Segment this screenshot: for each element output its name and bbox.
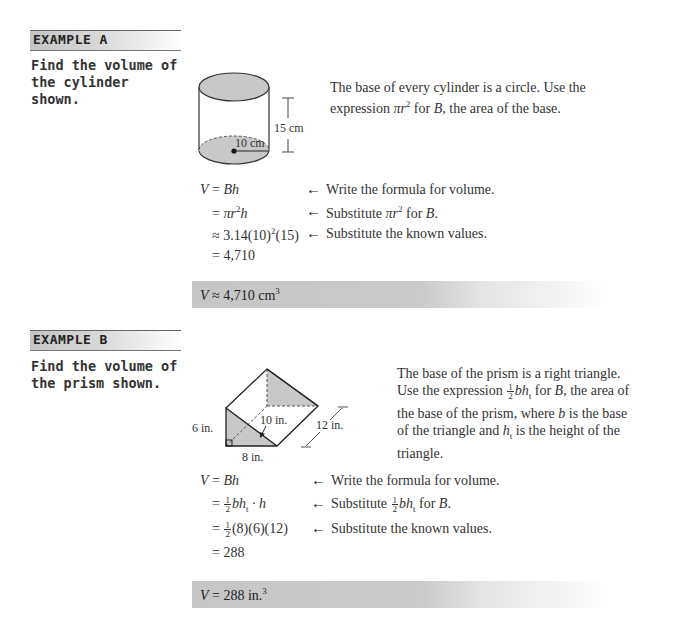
arrow-left-icon: ← [311,520,326,537]
radius-label: 10 cm [235,136,265,150]
example-a-title: EXAMPLE A [33,32,108,47]
example-b-description: The base of the prism is a right triangl… [397,365,677,462]
height-label: 15 cm [274,121,304,135]
example-a-description: The base of every cylinder is a circle. … [330,79,670,117]
arrow-left-icon: ← [311,495,326,512]
desc-line: triangle. [397,445,677,462]
desc-line: The base of every cylinder is a circle. … [330,79,670,96]
desc-line: The base of the prism is a right triangl… [397,365,677,382]
example-b-title: EXAMPLE B [33,332,108,347]
example-a-header: EXAMPLE A [30,30,181,51]
arrow-left-icon: ← [306,181,321,198]
length-label: 12 in. [316,418,343,432]
arrow-left-icon: ← [306,225,321,242]
base-label: 8 in. [242,450,263,464]
height-label: 6 in. [192,421,213,435]
example-b-header: EXAMPLE B [30,330,181,351]
hypotenuse-label: 10 in. [260,413,287,427]
desc-line: Use the expression 12bht for B, the area… [397,382,677,405]
example-b-answer: V = 288 in.3 [192,581,606,608]
desc-line: expression πr2 for B, the area of the ba… [330,96,670,117]
desc-line: of the triangle and ht is the height of … [397,422,677,445]
example-a-answer: V ≈ 4,710 cm3 [192,281,606,308]
arrow-left-icon: ← [311,472,326,489]
example-a-prompt: Find the volume of the cylinder shown. [31,57,181,108]
cylinder-figure: 10 cm 15 cm [190,65,330,180]
example-b-prompt: Find the volume of the prism shown. [31,358,181,392]
arrow-left-icon: ← [306,203,321,220]
prism-figure: 10 in. 6 in. 8 in. 12 in. [190,362,360,472]
desc-line: the base of the prism, where b is the ba… [397,405,677,422]
